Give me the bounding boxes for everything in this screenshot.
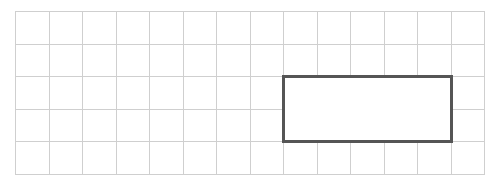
grid-cell [250, 11, 285, 45]
grid-cell [317, 141, 352, 175]
grid-cell [417, 141, 452, 175]
grid-cell [183, 141, 218, 175]
grid-cell [149, 109, 184, 143]
grid-cell [116, 109, 151, 143]
grid-cell [49, 141, 84, 175]
grid-cell [149, 141, 184, 175]
grid-cell [283, 44, 318, 78]
grid-cell [384, 44, 419, 78]
grid-cell [417, 44, 452, 78]
grid-cell [216, 76, 251, 110]
grid-cell [183, 109, 218, 143]
grid-cell [451, 76, 486, 110]
grid-cell [116, 44, 151, 78]
grid-cell [451, 11, 486, 45]
grid-cell [216, 11, 251, 45]
grid-cell [216, 109, 251, 143]
grid-cell [350, 141, 385, 175]
grid-cell [250, 76, 285, 110]
grid-cell [417, 11, 452, 45]
grid-cell [49, 76, 84, 110]
grid-cell [350, 44, 385, 78]
grid-cell [15, 109, 50, 143]
grid-cell [283, 11, 318, 45]
grid-cell [216, 44, 251, 78]
grid-cell [216, 141, 251, 175]
grid-cell [82, 109, 117, 143]
grid-cell [116, 76, 151, 110]
grid-cell [183, 76, 218, 110]
grid-cell [183, 11, 218, 45]
grid-cell [149, 11, 184, 45]
grid-cell [451, 141, 486, 175]
grid-cell [82, 11, 117, 45]
grid-cell [82, 44, 117, 78]
grid-cell [82, 76, 117, 110]
grid-cell [149, 44, 184, 78]
highlighted-rectangle [282, 75, 453, 143]
grid-cell [15, 76, 50, 110]
grid-cell [49, 44, 84, 78]
grid-cell [317, 11, 352, 45]
grid-cell [250, 141, 285, 175]
grid-cell [49, 11, 84, 45]
grid-cell [317, 44, 352, 78]
grid-cell [250, 44, 285, 78]
grid-cell [384, 141, 419, 175]
grid-cell [15, 44, 50, 78]
grid-cell [283, 141, 318, 175]
grid-cell [15, 141, 50, 175]
grid-cell [116, 141, 151, 175]
grid-cell [451, 109, 486, 143]
grid-cell [384, 11, 419, 45]
grid-cell [350, 11, 385, 45]
square-grid [15, 11, 484, 174]
grid-cell [149, 76, 184, 110]
grid-cell [183, 44, 218, 78]
grid-cell [15, 11, 50, 45]
grid-cell [250, 109, 285, 143]
grid-cell [82, 141, 117, 175]
grid-cell [116, 11, 151, 45]
grid-cell [451, 44, 486, 78]
grid-cell [49, 109, 84, 143]
